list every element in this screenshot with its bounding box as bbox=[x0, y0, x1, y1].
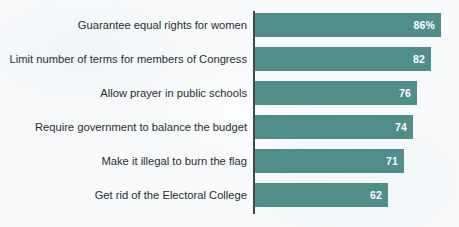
bar-value-label: 74 bbox=[395, 115, 407, 139]
bar-row: Limit number of terms for members of Con… bbox=[0, 47, 459, 71]
bar-row: Allow prayer in public schools 76 bbox=[0, 81, 459, 105]
bar-value-label: 82 bbox=[413, 47, 425, 71]
bar-track: 86% bbox=[255, 13, 441, 37]
bar-track: 76 bbox=[255, 81, 417, 105]
bar-chart: Guarantee equal rights for women 86% Lim… bbox=[0, 0, 459, 227]
bar-track: 74 bbox=[255, 115, 413, 139]
bar-fill: 62 bbox=[255, 183, 388, 207]
bar-fill: 74 bbox=[255, 115, 413, 139]
bar-fill: 76 bbox=[255, 81, 417, 105]
bar-fill: 86% bbox=[255, 13, 441, 37]
bar-track: 62 bbox=[255, 183, 388, 207]
bar-fill: 71 bbox=[255, 149, 404, 173]
bar-row: Require government to balance the budget… bbox=[0, 115, 459, 139]
bar-track: 82 bbox=[255, 47, 431, 71]
bar-fill: 82 bbox=[255, 47, 431, 71]
bar-row: Make it illegal to burn the flag 71 bbox=[0, 149, 459, 173]
bar-track: 71 bbox=[255, 149, 404, 173]
bar-category-label: Make it illegal to burn the flag bbox=[0, 149, 247, 173]
bar-category-label: Guarantee equal rights for women bbox=[0, 13, 247, 37]
bar-value-label: 86% bbox=[413, 13, 435, 37]
bar-value-label: 62 bbox=[370, 183, 382, 207]
bar-value-label: 71 bbox=[386, 149, 398, 173]
bar-value-label: 76 bbox=[399, 81, 411, 105]
bar-category-label: Get rid of the Electoral College bbox=[0, 183, 247, 207]
bar-row: Get rid of the Electoral College 62 bbox=[0, 183, 459, 207]
bar-category-label: Allow prayer in public schools bbox=[0, 81, 247, 105]
bar-category-label: Require government to balance the budget bbox=[0, 115, 247, 139]
bar-category-label: Limit number of terms for members of Con… bbox=[0, 47, 247, 71]
bar-row: Guarantee equal rights for women 86% bbox=[0, 13, 459, 37]
